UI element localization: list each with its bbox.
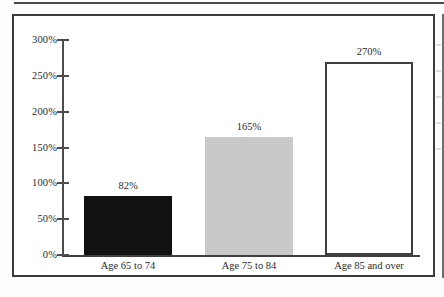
y-axis-tick-label: 100%	[15, 178, 57, 189]
y-axis-tick-label: 0%	[15, 250, 57, 261]
y-axis-tick-label: 250%	[15, 71, 57, 82]
y-axis-tick	[57, 39, 69, 41]
chart-frame: 300%250%200%150%100%50%0% 82%165%270% Ag…	[12, 14, 435, 277]
page-bleed-mark	[436, 96, 441, 98]
y-axis-tick-label: 300%	[15, 35, 57, 46]
page-bleed-mark	[436, 122, 441, 124]
page-bleed-mark	[436, 70, 441, 72]
bar	[325, 62, 413, 256]
page-top-rule	[14, 2, 444, 4]
page-bleed-mark	[436, 148, 441, 150]
y-axis-tick-label: 50%	[15, 214, 57, 225]
y-axis-tick	[57, 182, 69, 184]
x-axis-category-label: Age 65 to 74	[68, 261, 188, 272]
y-axis-tick	[57, 111, 69, 113]
bar	[205, 137, 293, 255]
x-axis-category-label: Age 85 and over	[309, 261, 429, 272]
y-axis-tick-label: 200%	[15, 107, 57, 118]
x-axis-category-label: Age 75 to 84	[189, 261, 309, 272]
bar-chart-plot-area: 300%250%200%150%100%50%0% 82%165%270% Ag…	[14, 16, 433, 275]
bar	[84, 196, 172, 255]
bar-value-label: 270%	[325, 47, 413, 58]
x-axis-line	[62, 255, 420, 257]
y-axis-tick	[57, 75, 69, 77]
y-axis-line	[62, 40, 64, 257]
y-axis-tick	[57, 218, 69, 220]
bar-value-label: 165%	[205, 122, 293, 133]
page-bleed-mark	[436, 44, 441, 46]
y-axis-tick	[57, 147, 69, 149]
y-axis-tick	[57, 254, 69, 256]
y-axis-tick-label: 150%	[15, 143, 57, 154]
bar-value-label: 82%	[84, 181, 172, 192]
scanned-page: 300%250%200%150%100%50%0% 82%165%270% Ag…	[0, 0, 444, 297]
